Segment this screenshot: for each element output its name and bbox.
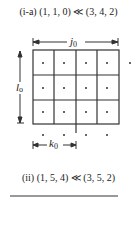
caption-bottom: (ii) (1, 5, 4) ≪ (3, 5, 2) [0, 172, 137, 183]
lattice-points [42, 62, 131, 136]
grid-lines [33, 50, 119, 133]
